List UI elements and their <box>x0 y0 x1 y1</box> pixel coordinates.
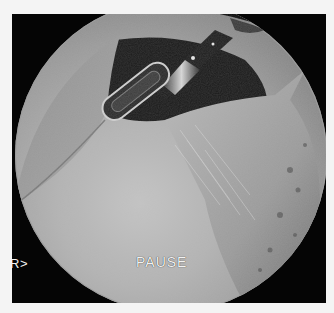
pause-status-label: PAUSE <box>136 254 187 270</box>
endoscope-frame: R> PAUSE <box>12 14 326 303</box>
side-marker-label: R> <box>12 256 28 271</box>
